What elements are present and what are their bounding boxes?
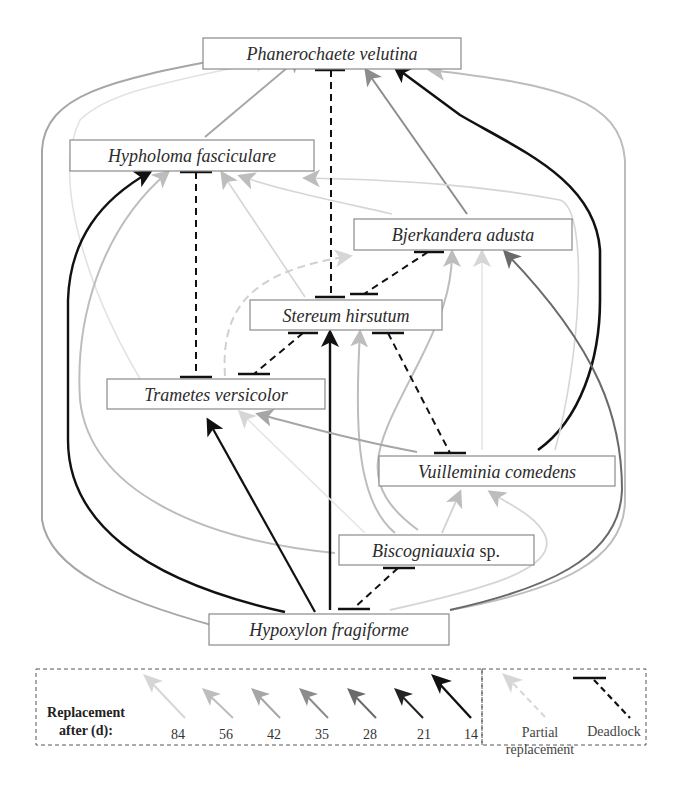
legend-arrow-84	[143, 674, 185, 718]
node-vuilleminia: Vuilleminia comedens	[379, 456, 615, 486]
edge-hypoxylon-trametes	[208, 420, 315, 612]
node-bjerkandera: Bjerkandera adusta	[354, 219, 572, 250]
legend-day-28: 28	[363, 727, 377, 742]
deadlock-bjerkandera-stereum	[350, 252, 444, 294]
edge-biscogniauxia-vuilleminia	[442, 492, 460, 533]
node-label-stereum: Stereum hirsutum	[283, 306, 410, 326]
legend-arrow-28	[347, 688, 376, 718]
legend-day-14: 14	[464, 727, 478, 742]
node-biscogniauxia: Biscogniauxia sp.	[339, 535, 534, 565]
legend-arrow-14	[431, 674, 471, 718]
legend-day-56: 56	[219, 727, 233, 742]
legend-deadlock-label: Deadlock	[587, 724, 641, 739]
node-label-hypoxylon: Hypoxylon fragiforme	[248, 620, 408, 640]
legend-arrow-35	[299, 688, 328, 718]
deadlock-stereum-trametes	[238, 333, 318, 374]
legend-partial-line1: Partial	[522, 725, 559, 740]
edge-vuilleminia-trametes	[258, 414, 417, 452]
legend-arrow-42	[251, 688, 280, 718]
node-label-phanerochaete: Phanerochaete velutina	[246, 44, 418, 64]
legend-partial-replacement: Partial replacement	[502, 673, 574, 757]
node-label-hypholoma: Hypholoma fasciculare	[107, 146, 276, 166]
legend: Replacement after (d):	[36, 669, 646, 757]
deadlock-phanerochaete-stereum	[315, 70, 345, 297]
node-hypholoma: Hypholoma fasciculare	[70, 140, 314, 171]
edge-trametes-phanerochaete	[70, 60, 270, 395]
node-phanerochaete: Phanerochaete velutina	[203, 38, 461, 69]
edge-biscogniauxia-trametes	[240, 412, 365, 533]
edge-biscogniauxia-hypholoma	[79, 172, 335, 553]
legend-partial-line2: replacement	[506, 742, 575, 757]
node-trametes: Trametes versicolor	[107, 379, 325, 409]
legend-deadlock: Deadlock	[573, 678, 641, 739]
legend-day-35: 35	[315, 727, 329, 742]
legend-day-84: 84	[171, 727, 185, 742]
node-hypoxylon: Hypoxylon fragiforme	[209, 614, 449, 645]
legend-day-21: 21	[417, 727, 431, 742]
deadlock-hypholoma-trametes	[180, 172, 212, 377]
interaction-network-diagram: Phanerochaete velutina Hypholoma fascicu…	[0, 0, 674, 806]
node-stereum: Stereum hirsutum	[250, 300, 442, 330]
legend-arrow-56	[202, 688, 233, 718]
edge-biscogniauxia-bjerkandera	[378, 252, 452, 530]
legend-title-line2: after (d):	[59, 723, 113, 739]
edge-vuilleminia-phanerochaete	[395, 67, 600, 450]
deadlock-stereum-vuilleminia	[372, 333, 466, 453]
deadlock-biscogniauxia-hypoxylon	[338, 568, 415, 609]
node-label-biscogniauxia: Biscogniauxia sp.	[372, 541, 500, 561]
node-label-bjerkandera: Bjerkandera adusta	[392, 225, 534, 245]
edge-bjerkandera-hypholoma	[240, 176, 392, 214]
legend-arrow-21	[394, 688, 423, 718]
edge-bjerkandera-phanerochaete	[366, 70, 467, 214]
node-label-trametes: Trametes versicolor	[144, 385, 288, 405]
legend-day-42: 42	[267, 727, 281, 742]
node-label-vuilleminia: Vuilleminia comedens	[418, 462, 576, 482]
legend-title-line1: Replacement	[47, 705, 125, 720]
